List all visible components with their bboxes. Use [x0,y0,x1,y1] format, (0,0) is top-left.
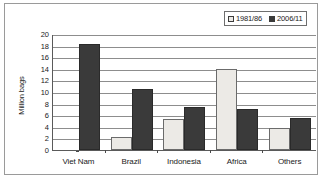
bar-viet-nam-2006-11[interactable] [79,44,100,150]
y-axis-tick-labels: 20181614121086420 [32,31,52,155]
y-axis-tick-label: 10 [41,89,49,97]
plot-area [52,35,316,151]
bar-africa-2006-11[interactable] [237,109,258,150]
bar-group [158,35,211,150]
bar-group [211,35,264,150]
legend-label-1981-86: 1981/86 [236,14,262,23]
light-square-swatch-icon [228,16,234,22]
bar-others-2006-11[interactable] [290,118,311,150]
y-axis-tick-label: 20 [41,31,49,39]
bar-brazil-2006-11[interactable] [132,89,153,150]
y-axis-tick-label: 0 [45,147,49,155]
bars-layer [53,35,316,150]
bar-group [53,35,106,150]
y-axis-title-text: Million bags [17,76,26,114]
x-axis-tick-mark [157,150,158,153]
bar-brazil-1981-86[interactable] [111,137,132,150]
x-axis-tick-mark [262,150,263,153]
y-axis-tick-label: 4 [45,124,49,132]
legend-entry-1981-86: 1981/86 [228,14,262,23]
x-axis-tick-label: Africa [210,157,263,166]
x-axis-tick-label: Others [263,157,316,166]
y-axis-tick-label: 16 [41,54,49,62]
x-axis-tick-mark [105,150,106,153]
y-axis-tick-label: 6 [45,112,49,120]
y-axis-tick-label: 14 [41,66,49,74]
bar-africa-1981-86[interactable] [216,69,237,150]
chart-screenshot: 1981/86 2006/11 Million bags 20181614121… [0,0,323,180]
chart-legend: 1981/86 2006/11 [224,11,307,26]
legend-label-2006-11: 2006/11 [277,14,303,23]
y-axis-tick-label: 8 [45,101,49,109]
chart-frame: 1981/86 2006/11 Million bags 20181614121… [4,3,318,175]
y-axis-tick-mark [76,151,79,152]
y-axis-tick-label: 18 [41,43,49,51]
bar-indonesia-1981-86[interactable] [163,119,184,150]
bar-indonesia-2006-11[interactable] [184,107,205,150]
y-axis-tick-label: 2 [45,135,49,143]
bar-group [106,35,159,150]
bar-group [263,35,316,150]
y-axis-title: Million bags [15,60,27,130]
legend-entry-2006-11: 2006/11 [269,14,303,23]
x-axis-tick-labels: Viet NamBrazilIndonesiaAfricaOthers [52,157,316,166]
x-axis-tick-label: Brazil [105,157,158,166]
x-axis-tick-mark [210,150,211,153]
plot-axes [52,35,316,151]
x-axis-tick-label: Viet Nam [52,157,105,166]
bar-others-1981-86[interactable] [269,128,290,150]
x-axis-tick-label: Indonesia [158,157,211,166]
y-axis-tick-label: 12 [41,77,49,85]
dark-square-swatch-icon [269,16,275,22]
